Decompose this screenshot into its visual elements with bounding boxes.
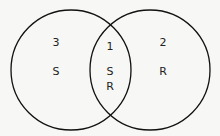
intersection-label-s: S bbox=[107, 65, 114, 78]
left-only-count: 3 bbox=[53, 36, 60, 49]
left-only-set-label: S bbox=[53, 65, 60, 78]
venn-diagram: 3 S 1 S R 2 R bbox=[0, 0, 220, 136]
intersection-label-r: R bbox=[106, 80, 114, 93]
right-only-count: 2 bbox=[160, 36, 167, 49]
right-only-set-label: R bbox=[159, 65, 167, 78]
intersection-count: 1 bbox=[107, 40, 114, 53]
